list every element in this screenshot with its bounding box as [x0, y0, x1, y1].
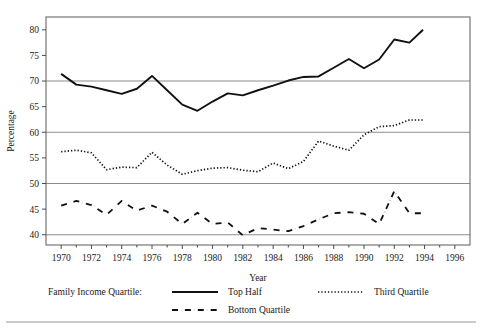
y-tick-label-60: 60 — [30, 128, 40, 138]
x-tick-label-1984: 1984 — [264, 253, 283, 263]
x-tick-label-1988: 1988 — [324, 253, 343, 263]
line-chart: 404550556065707580 197019721974197619781… — [0, 0, 482, 328]
x-tick-label-1976: 1976 — [143, 253, 162, 263]
y-axis-title: Percentage — [6, 110, 16, 152]
y-tick-label-55: 55 — [30, 153, 40, 163]
legend-title: Family Income Quartile: — [48, 287, 142, 297]
legend-label-top-half: Top Half — [228, 287, 263, 297]
legend-label-third-quartile: Third Quartile — [374, 287, 429, 297]
y-tick-label-80: 80 — [30, 25, 40, 35]
x-tick-label-1994: 1994 — [415, 253, 434, 263]
y-tick-label-75: 75 — [30, 51, 40, 61]
x-tick-label-1978: 1978 — [173, 253, 192, 263]
x-tick-label-1992: 1992 — [385, 253, 404, 263]
x-tick-label-1990: 1990 — [355, 253, 374, 263]
y-tick-label-65: 65 — [30, 102, 40, 112]
legend-label-bottom-quartile: Bottom Quartile — [228, 305, 290, 315]
y-tick-label-45: 45 — [30, 205, 40, 215]
x-tick-label-1996: 1996 — [445, 253, 464, 263]
x-tick-label-1972: 1972 — [82, 253, 101, 263]
chart-figure: 404550556065707580 197019721974197619781… — [0, 0, 482, 328]
x-tick-label-1970: 1970 — [52, 253, 71, 263]
x-tick-label-1986: 1986 — [294, 253, 313, 263]
y-tick-label-50: 50 — [30, 179, 40, 189]
x-tick-label-1974: 1974 — [112, 253, 131, 263]
x-tick-label-1980: 1980 — [203, 253, 222, 263]
y-tick-labels-group: 404550556065707580 — [30, 25, 40, 240]
y-tick-label-40: 40 — [30, 230, 40, 240]
x-axis-title: Year — [249, 273, 267, 283]
y-tick-label-70: 70 — [30, 76, 40, 86]
x-tick-label-1982: 1982 — [233, 253, 252, 263]
chart-background — [0, 0, 482, 328]
